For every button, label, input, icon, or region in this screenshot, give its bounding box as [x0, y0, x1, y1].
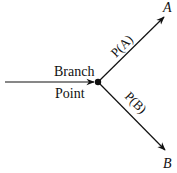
branch-label-line2: Point [55, 86, 85, 101]
node-b-label: B [163, 156, 172, 171]
node-a-label: A [162, 0, 172, 15]
branch-label-line1: Branch [54, 64, 94, 79]
edge-upper-label: P(A) [108, 32, 136, 60]
branch-diagram: Branch Point P(A) P(B) A B [0, 0, 177, 173]
edge-lower-label: P(B) [122, 89, 150, 117]
